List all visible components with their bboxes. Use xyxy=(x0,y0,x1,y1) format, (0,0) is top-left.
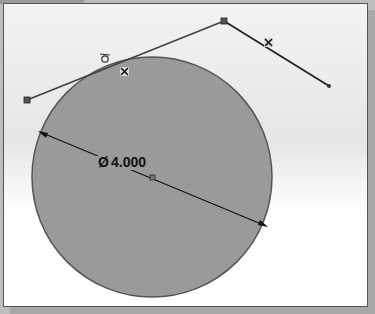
coincident-constraint-icon[interactable] xyxy=(264,38,273,47)
tangent-constraint-icon[interactable] xyxy=(100,54,110,62)
coincident-constraint-icon[interactable] xyxy=(120,67,129,76)
dimension-symbol: Ø xyxy=(98,154,109,170)
endpoint-right[interactable] xyxy=(327,84,331,88)
circle-center-point[interactable] xyxy=(150,175,155,180)
sketch-line-right[interactable] xyxy=(224,21,329,86)
endpoint-left[interactable] xyxy=(24,97,30,103)
dimension-value[interactable]: 4.000 xyxy=(111,154,146,170)
endpoint-top[interactable] xyxy=(221,18,227,24)
sketch-canvas[interactable]: Ø 4.000 xyxy=(0,0,375,314)
